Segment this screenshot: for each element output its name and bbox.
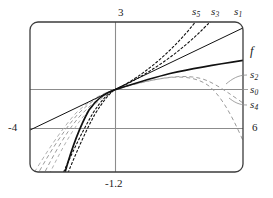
leader-s2: [226, 75, 247, 84]
curve-label-s2: s2: [250, 69, 258, 80]
curve-label-s1: s1: [234, 6, 242, 17]
curve-label-s0: s0: [250, 84, 258, 95]
curve-s3: [55, 20, 212, 192]
curve-label-f: f: [250, 45, 253, 58]
curve-s2: [33, 77, 243, 183]
curve-s4: [36, 77, 245, 190]
curves-group: [28, 17, 246, 193]
curve-fan-strand-a: [31, 90, 116, 179]
curve-label-s4: s4: [250, 99, 258, 110]
taylor-series-figure: 3 -1.2 -4 6 s5 s3 s1 f s2 s0 s4: [0, 0, 273, 198]
axis-label-left: -4: [8, 122, 17, 133]
axis-label-top: 3: [118, 7, 124, 18]
axis-label-bottom: -1.2: [105, 178, 122, 189]
plot-canvas: [0, 0, 273, 198]
axis-label-right: 6: [252, 122, 258, 133]
curve-label-s5: s5: [192, 6, 200, 17]
curve-label-s3: s3: [211, 6, 219, 17]
curve-f: [64, 60, 245, 176]
curve-s5: [60, 17, 199, 193]
leader-s4: [229, 98, 247, 105]
